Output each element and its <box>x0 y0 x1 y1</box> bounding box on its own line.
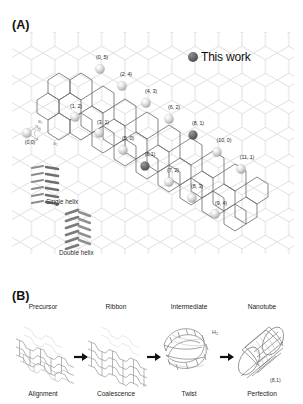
chirality-index-label: (1, 2) <box>70 103 82 109</box>
stage-caption: Coalescence <box>85 390 147 397</box>
chirality-index-label: (10, 0) <box>217 137 232 143</box>
panel-a-letter: (A) <box>12 18 29 32</box>
chirality-index-label: (6, 2) <box>168 104 180 110</box>
legend: This work <box>188 50 251 64</box>
stage-title: Intermediate <box>158 303 220 310</box>
chiral-angle-label: θ <box>38 126 41 132</box>
stage-caption: Alignment <box>12 390 74 397</box>
legend-label: This work <box>201 50 251 64</box>
twisted-ribbon-graphic <box>158 315 220 387</box>
chirality-index-label: (0,0) <box>25 139 36 145</box>
stage-precursor: Precursor <box>12 303 74 400</box>
chirality-index-label: (9, 4) <box>215 200 227 206</box>
lattice-vector-a2-label: a₁ <box>38 118 42 124</box>
chirality-marker <box>165 178 174 187</box>
chirality-marker <box>23 129 32 138</box>
chirality-marker <box>189 131 198 140</box>
stage-caption: Twist <box>158 390 220 397</box>
precursor-molecule-graphic <box>12 315 74 387</box>
single-helix-label: Single helix <box>46 198 78 205</box>
nanotube-chirality-label: (8,1) <box>270 377 281 383</box>
chirality-index-label: (4, 3) <box>145 88 157 94</box>
chirality-index-label: (2, 4) <box>120 71 132 77</box>
stage-title: Ribbon <box>85 303 147 310</box>
chirality-marker <box>141 162 150 171</box>
chirality-marker <box>142 99 151 108</box>
chirality-marker <box>237 165 246 174</box>
chirality-index-label: (11, 1) <box>240 154 254 160</box>
chirality-index-label: (5, 0) <box>122 135 134 141</box>
stage-caption: Perfection <box>231 390 293 397</box>
panel-b: Precursor <box>8 303 298 400</box>
double-helix-label: Double helix <box>59 249 94 256</box>
hydrogen-byproduct-label: H₂ <box>212 329 218 335</box>
chirality-marker <box>211 210 220 219</box>
chirality-marker <box>118 82 127 91</box>
stage-ribbon: Ribbon <box>85 303 147 400</box>
double-helix-graphic <box>64 208 92 254</box>
stage-intermediate: Intermediate Twist <box>158 303 220 400</box>
stage-title: Nanotube <box>231 303 293 310</box>
stage-nanotube: Nanotube Perfection <box>231 303 293 400</box>
chirality-index-label: (0, 5) <box>96 54 108 60</box>
panel-a: a₁ a₂ θ (0,0)(0, 5)(2, 4)(4, 3)(6, 2)(8,… <box>12 32 294 254</box>
figure-root: (A) <box>0 0 303 404</box>
chirality-index-label: (8, 1) <box>192 120 204 126</box>
carbon-nanotube-graphic <box>231 315 293 387</box>
chirality-marker <box>71 113 80 122</box>
this-work-marker-icon <box>188 52 198 62</box>
chirality-index-label: (6,1) <box>145 151 156 157</box>
stage-title: Precursor <box>12 303 74 310</box>
chirality-index-label: (7, 2) <box>167 167 179 173</box>
panel-b-letter: (B) <box>12 289 29 303</box>
chirality-marker <box>96 65 105 74</box>
chirality-marker <box>213 148 222 157</box>
chirality-marker <box>165 115 174 124</box>
chirality-marker <box>95 129 104 138</box>
chirality-index-label: (3, 1) <box>97 119 109 125</box>
chirality-marker <box>188 194 197 203</box>
chirality-marker <box>119 146 128 155</box>
lattice-vector-a1-label: a₂ <box>53 140 58 146</box>
chirality-index-label: (8, 3) <box>191 183 203 189</box>
graphene-ribbon-graphic <box>85 315 147 387</box>
